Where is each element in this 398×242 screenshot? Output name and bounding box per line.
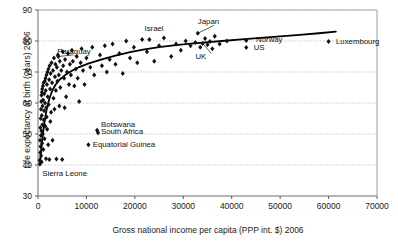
- x-tick-label: 40000: [209, 201, 255, 211]
- x-tick-label: 30000: [160, 201, 206, 211]
- y-tick-label: 80: [6, 36, 32, 46]
- y-tick-label: 50: [6, 129, 32, 139]
- chart-figure: Life expectancy at birth (years) 2006 Gr…: [0, 0, 398, 242]
- x-tick-label: 60000: [306, 201, 352, 211]
- x-tick-label: 70000: [354, 201, 398, 211]
- point-annotation-label: Sierra Leone: [42, 169, 87, 178]
- point-annotation-label: Japan: [198, 17, 219, 26]
- y-tick-label: 30: [6, 191, 32, 201]
- point-annotation-label: US: [254, 43, 265, 52]
- point-annotation-label: South Africa: [101, 127, 143, 136]
- point-annotation-label: UK: [195, 52, 206, 61]
- x-tick-label: 50000: [257, 201, 303, 211]
- point-annotation-label: Paraguay: [57, 47, 90, 56]
- y-tick-label: 40: [6, 160, 32, 170]
- x-tick-label: 20000: [112, 201, 158, 211]
- y-tick-label: 90: [6, 5, 32, 15]
- y-tick-label: 70: [6, 67, 32, 77]
- x-tick-label: 0: [15, 201, 61, 211]
- point-annotation-label: Equatorial Guinea: [93, 140, 155, 149]
- x-axis-title: Gross national income per capita (PPP in…: [88, 225, 328, 235]
- y-tick-label: 60: [6, 98, 32, 108]
- point-annotation-label: Israel: [145, 24, 164, 33]
- x-tick-label: 10000: [63, 201, 109, 211]
- point-annotation-label: Luxembourg: [336, 37, 379, 46]
